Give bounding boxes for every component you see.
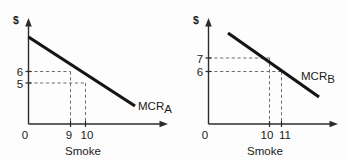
chart-panel-left: $ 6 5 0 9 10 Smoke MCRA [13,14,172,157]
left-mcr-curve [29,37,136,106]
left-curve-label-subscript: A [164,103,172,115]
left-ytick-label-6: 6 [17,66,23,78]
right-ytick-label-6: 6 [197,66,203,78]
left-curve-label-text: MCR [138,100,164,112]
right-curve-label-text: MCR [301,70,327,82]
left-xtick-label-10: 10 [81,129,94,141]
right-xtick-label-10: 10 [261,129,274,141]
right-curve-label-subscript: B [327,73,335,85]
left-currency-axis-label: $ [13,14,19,26]
left-origin-label: 0 [22,129,28,141]
right-origin-label: 0 [202,129,208,141]
two-panel-mcr-figure: $ 6 5 0 9 10 Smoke MCRA [0,0,347,160]
right-curve-label: MCRB [301,70,335,85]
figure-canvas: $ 6 5 0 9 10 Smoke MCRA [0,0,347,160]
right-ytick-label-7: 7 [197,53,203,65]
left-curve-label: MCRA [138,100,172,115]
chart-panel-right: $ 7 6 0 10 11 Smoke MCRB [193,14,338,157]
right-x-axis-arrowhead [330,121,339,128]
left-ytick-label-5: 5 [17,78,23,90]
left-y-axis-arrowhead [25,18,32,27]
left-xtick-label-9: 9 [66,129,72,141]
right-xtick-label-11: 11 [279,129,291,141]
right-y-axis-arrowhead [205,18,212,27]
right-mcr-curve [228,33,319,97]
left-x-axis-arrowhead [160,121,169,128]
right-currency-axis-label: $ [193,14,199,26]
right-x-axis-title: Smoke [247,145,283,157]
left-x-axis-title: Smoke [65,145,101,157]
